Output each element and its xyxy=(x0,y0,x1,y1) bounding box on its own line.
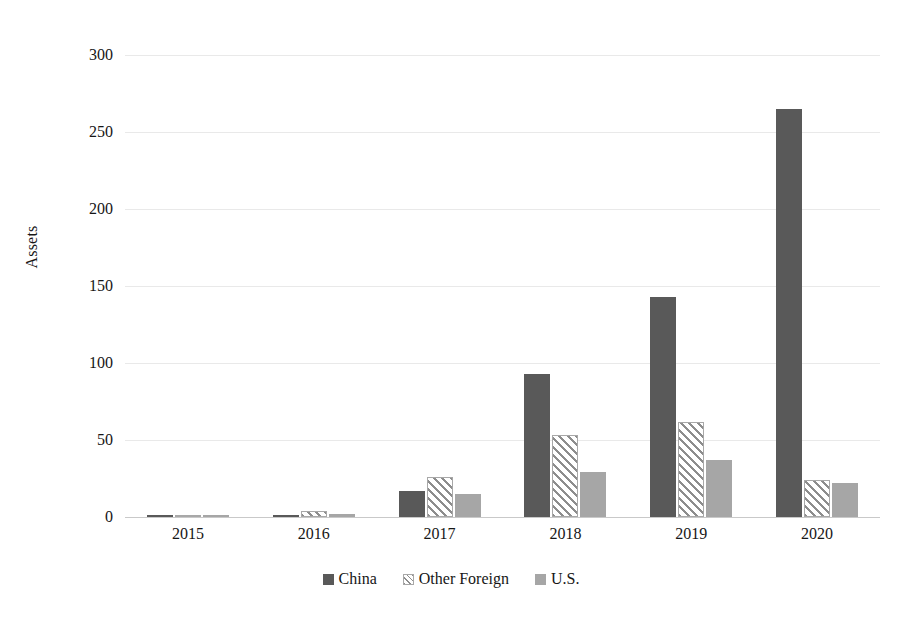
bar xyxy=(147,515,173,517)
y-axis-tick-label: 300 xyxy=(89,46,113,64)
legend-swatch-icon xyxy=(535,574,546,585)
plot-area: 050100150200250300 xyxy=(125,55,880,517)
bar xyxy=(524,374,550,517)
bar xyxy=(552,435,578,517)
legend-swatch-icon xyxy=(323,574,334,585)
x-axis-tick-label: 2018 xyxy=(503,525,629,543)
bar xyxy=(776,109,802,517)
x-axis-tick-label: 2019 xyxy=(628,525,754,543)
legend-label: China xyxy=(339,570,377,588)
bar xyxy=(273,515,299,517)
bar-group xyxy=(754,55,880,517)
bar-group xyxy=(251,55,377,517)
bar xyxy=(678,422,704,517)
x-axis-tick-label: 2020 xyxy=(754,525,880,543)
bar xyxy=(399,491,425,517)
legend-label: Other Foreign xyxy=(419,570,509,588)
bar xyxy=(706,460,732,517)
y-axis-tick-label: 250 xyxy=(89,123,113,141)
x-axis-tick-label: 2015 xyxy=(125,525,251,543)
bar xyxy=(650,297,676,517)
legend-item[interactable]: U.S. xyxy=(535,570,579,588)
bar xyxy=(427,477,453,517)
y-axis-tick-label: 0 xyxy=(105,508,113,526)
bar xyxy=(580,472,606,517)
y-axis-tick-label: 150 xyxy=(89,277,113,295)
bar xyxy=(301,511,327,517)
bar xyxy=(175,515,201,517)
y-axis-tick-label: 50 xyxy=(97,431,113,449)
bar xyxy=(832,483,858,517)
y-axis-tick-label: 200 xyxy=(89,200,113,218)
y-axis-tick-label: 100 xyxy=(89,354,113,372)
bar-chart: Assets 050100150200250300 20152016201720… xyxy=(0,0,902,620)
legend-swatch-icon xyxy=(403,574,414,585)
bar xyxy=(203,515,229,517)
y-axis-title: Assets xyxy=(23,187,41,307)
bar-group xyxy=(628,55,754,517)
legend-label: U.S. xyxy=(551,570,579,588)
x-axis-tick-label: 2016 xyxy=(251,525,377,543)
bar-group xyxy=(125,55,251,517)
bar xyxy=(804,480,830,517)
x-axis-tick-label: 2017 xyxy=(377,525,503,543)
bar-group xyxy=(377,55,503,517)
legend-item[interactable]: China xyxy=(323,570,377,588)
legend-item[interactable]: Other Foreign xyxy=(403,570,509,588)
chart-legend: ChinaOther ForeignU.S. xyxy=(0,570,902,588)
gridline xyxy=(125,517,880,518)
bar xyxy=(329,514,355,517)
bar-group xyxy=(503,55,629,517)
bar xyxy=(455,494,481,517)
